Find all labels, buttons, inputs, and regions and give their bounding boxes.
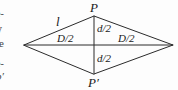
geometry-figure: e- y le e- p′ P P′ l D/2 D/2 d/2 d/2 (0, 0, 178, 90)
label-apex-top: P (90, 0, 98, 16)
label-half-major-diagonal-left: D/2 (57, 32, 74, 44)
label-half-minor-diagonal-top: d/2 (97, 22, 111, 34)
label-half-major-diagonal-right: D/2 (118, 32, 135, 44)
label-apex-bottom: P′ (88, 75, 99, 90)
label-side-length: l (56, 14, 60, 30)
label-half-minor-diagonal-bottom: d/2 (97, 52, 111, 64)
